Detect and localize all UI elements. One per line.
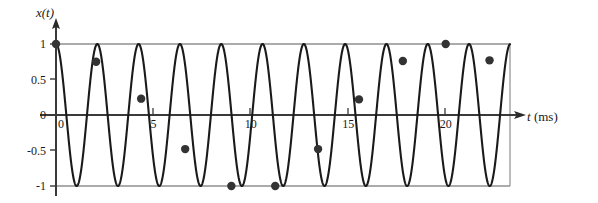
y-tick-label-0: 1 [12,38,46,50]
sample-point-5 [271,182,279,190]
sample-point-3 [181,145,189,153]
y-axis-title: x(t) [36,6,54,19]
sample-point-4 [227,182,235,190]
x-tick-label-2: 10 [238,118,264,130]
sample-point-10 [485,56,493,64]
x-tick-label-3: 15 [335,118,361,130]
figure-container: x(t) t (ms) 0 10.50-0.5-1 5101520 [0,0,598,203]
y-tick-label-4: -1 [12,180,46,192]
y-tick-label-3: -0.5 [12,145,46,157]
sampled-sinusoid-chart [0,0,598,203]
x-tick-label-4: 20 [433,118,459,130]
sample-point-6 [314,145,322,153]
y-tick-label-2: 0 [12,109,46,121]
sample-point-9 [442,40,450,48]
y-tick-label-1: 0.5 [12,74,46,86]
sample-point-8 [399,57,407,65]
origin-label: 0 [58,118,64,130]
x-axis-title-unit: (ms) [534,109,558,124]
sample-point-7 [355,95,363,103]
sample-point-0 [52,40,60,48]
sample-point-1 [92,58,100,66]
sample-point-2 [137,94,145,102]
x-axis-title: t (ms) [527,110,558,123]
x-tick-label-1: 5 [140,118,166,130]
